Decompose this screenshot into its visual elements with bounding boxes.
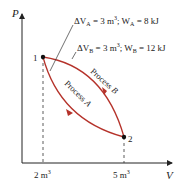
process-a-arrow-icon [66,109,73,116]
x-axis-label: V [166,169,174,181]
state-point-1 [41,55,45,59]
y-axis-label: P [11,7,19,19]
state-label-1: 1 [33,53,38,63]
state-point-2 [122,135,126,139]
pv-diagram: P V 2 m3 5 m3 1 2 ΔVA = 3 m3; WA = 8 kJ … [0,0,184,185]
state-label-2: 2 [128,134,133,144]
x-tick-2m3: 2 m3 [34,169,51,180]
annotation-a: ΔVA = 3 m3; WA = 8 kJ [74,15,159,27]
leader-line-b [72,52,76,59]
annotation-b: ΔVB = 3 m3; WB = 12 kJ [77,42,166,54]
x-tick-5m3: 5 m3 [113,169,130,180]
